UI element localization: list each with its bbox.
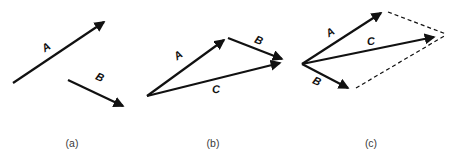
panel-a-vector-a-label: A xyxy=(39,40,53,55)
panel-b: A B C (b) xyxy=(147,33,282,149)
panel-c: A C B (c) xyxy=(302,12,446,149)
panel-b-vector-c-label: C xyxy=(212,83,222,95)
panel-b-caption: (b) xyxy=(207,137,220,149)
panel-c-dashed-line-top xyxy=(388,12,446,34)
panel-c-vector-c-label: C xyxy=(366,34,377,47)
panel-b-vector-b-label: B xyxy=(253,33,265,47)
panel-a-vector-b-arrow xyxy=(68,80,123,106)
panel-b-vector-a-label: A xyxy=(170,48,184,63)
vector-addition-figure: A B (a) A B C (b) A C B (c) xyxy=(0,0,461,159)
panel-c-vector-b-arrow xyxy=(302,64,348,88)
vector-diagram-canvas: A B (a) A B C (b) A C B (c) xyxy=(0,0,461,159)
panel-a: A B (a) xyxy=(13,22,123,149)
panel-a-vector-b-label: B xyxy=(94,70,106,84)
panel-a-caption: (a) xyxy=(66,137,79,149)
panel-a-vector-a-arrow xyxy=(13,22,104,83)
panel-c-caption: (c) xyxy=(365,137,377,149)
panel-c-vector-b-label: B xyxy=(311,74,323,88)
panel-c-vector-a-label: A xyxy=(323,25,337,40)
